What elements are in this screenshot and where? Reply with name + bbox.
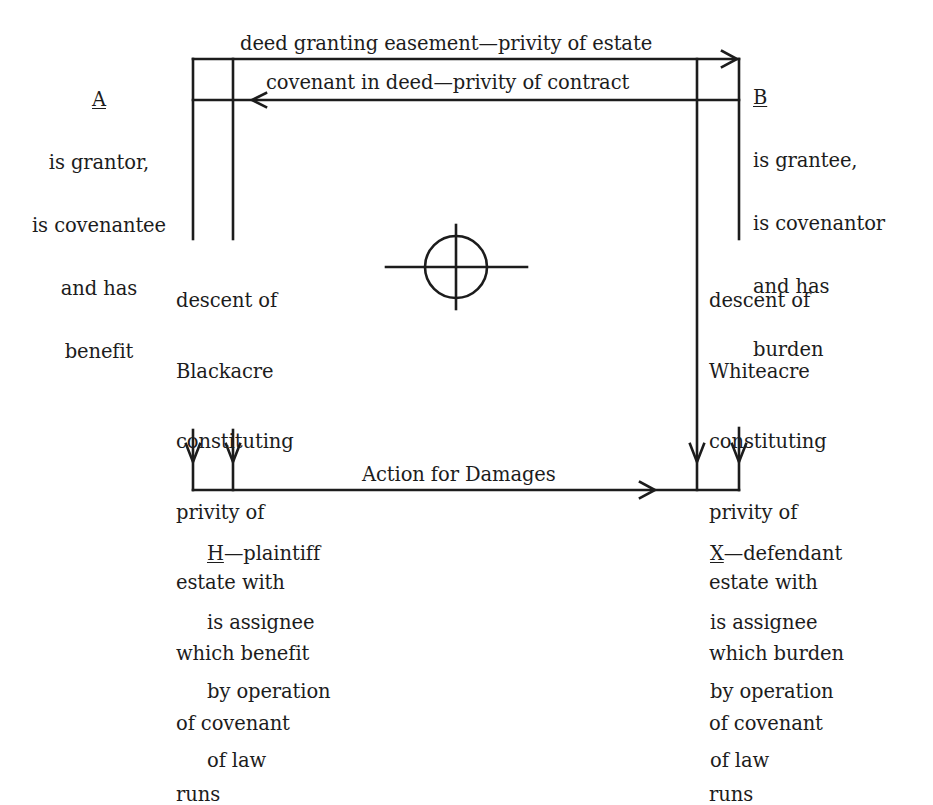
party-b-line: is covenantor: [753, 213, 885, 234]
party-b-line: is grantee,: [753, 150, 885, 171]
party-h-letter: H: [207, 542, 224, 565]
party-x-line: is assignee: [710, 611, 842, 634]
party-a-letter: A: [16, 89, 182, 110]
descent-line: Blackacre: [176, 360, 309, 384]
action-label: Action for Damages: [362, 464, 556, 485]
party-h-line: by operation: [207, 680, 331, 703]
deed-label: deed granting easement—privity of estate: [240, 33, 652, 54]
party-x-role: —defendant: [724, 542, 842, 565]
descent-line: descent of: [176, 289, 309, 313]
descent-line: constituting: [709, 430, 844, 454]
party-b-letter: B: [753, 87, 885, 108]
party-a: A is grantor, is covenantee and has bene…: [16, 47, 182, 383]
party-h-line: of law: [207, 749, 331, 772]
party-a-line: and has: [16, 278, 182, 299]
party-h: H—plaintiff is assignee by operation of …: [207, 496, 331, 795]
party-h-line: is assignee: [207, 611, 331, 634]
party-x-letter: X: [710, 542, 724, 565]
party-h-role: —plaintiff: [224, 542, 320, 565]
party-a-line: benefit: [16, 341, 182, 362]
party-a-line: is grantor,: [16, 152, 182, 173]
descent-line: Whiteacre: [709, 360, 844, 384]
covenant-label: covenant in deed—privity of contract: [266, 72, 629, 93]
party-x-line: of law: [710, 749, 842, 772]
descent-line: descent of: [709, 289, 844, 313]
crosshair-circle-icon: [386, 225, 527, 309]
party-x-line: by operation: [710, 680, 842, 703]
party-x: X—defendant is assignee by operation of …: [710, 496, 842, 795]
party-a-line: is covenantee: [16, 215, 182, 236]
descent-line: constituting: [176, 430, 309, 454]
